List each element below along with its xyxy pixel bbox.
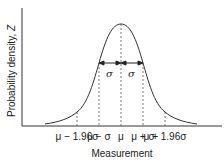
- normal-distribution-diagram: σ σ μ − 1.96σ μ − σ μ μ + σ μ + 1.96σ Me…: [0, 0, 224, 163]
- x-axis-title: Measurement: [91, 148, 152, 159]
- tick-mu-minus-sigma: μ − σ: [87, 131, 111, 142]
- reference-lines: [77, 24, 165, 126]
- sigma-label-left: σ: [106, 68, 114, 79]
- tick-mu: μ: [118, 131, 124, 142]
- tick-mu-plus-196sigma: μ + 1.96σ: [144, 131, 188, 142]
- sigma-label-right: σ: [128, 68, 136, 79]
- y-axis-title: Probability density, Z: [6, 24, 17, 117]
